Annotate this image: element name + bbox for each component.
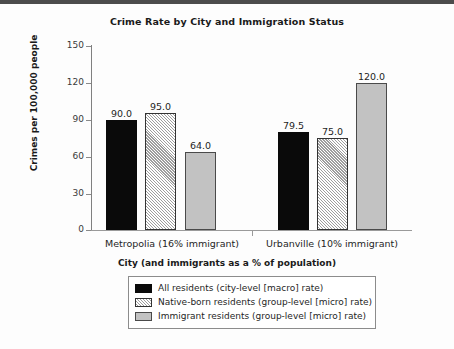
bar-value-label: 79.5 xyxy=(283,120,304,131)
legend-item-native-born[interactable]: Native-born residents (group-level [micr… xyxy=(135,295,369,309)
y-tick-30: 30 xyxy=(54,188,84,200)
bar-urbanville-immigrant[interactable]: 120.0 xyxy=(356,83,387,230)
bar-value-label: 64.0 xyxy=(190,140,211,151)
bar-column: 90.0 xyxy=(106,46,137,230)
legend-label: Native-born residents (group-level [micr… xyxy=(158,297,372,307)
y-tick-120: 120 xyxy=(54,77,84,89)
bar-column: 64.0 xyxy=(185,46,216,230)
chart-legend: All residents (city-level [macro] rate) … xyxy=(128,276,376,329)
y-tick-label: 60 xyxy=(58,151,84,161)
bar-column: 75.0 xyxy=(317,46,348,230)
x-axis-label: City (and immigrants as a % of populatio… xyxy=(0,258,454,268)
legend-swatch-hatch-icon xyxy=(135,298,152,307)
y-axis-label: Crimes per 100,000 people xyxy=(29,33,39,173)
bar-column: 95.0 xyxy=(145,46,176,230)
y-tick-label: 30 xyxy=(58,188,84,198)
y-tick-label: 150 xyxy=(58,40,84,50)
top-band xyxy=(0,0,454,4)
chart-figure: Crime Rate by City and Immigration Statu… xyxy=(0,0,454,349)
y-tick-label: 90 xyxy=(58,114,84,124)
legend-item-all-residents[interactable]: All residents (city-level [macro] rate) xyxy=(135,281,369,295)
y-tick-60: 60 xyxy=(54,151,84,163)
y-tick-label: 120 xyxy=(58,77,84,87)
bar-value-label: 75.0 xyxy=(322,126,343,137)
y-tick-90: 90 xyxy=(54,114,84,126)
x-category-label-metropolia: Metropolia (16% immigrant) xyxy=(92,238,252,249)
legend-swatch-gray-icon xyxy=(135,312,152,321)
bar-value-label: 90.0 xyxy=(111,108,132,119)
plot-area: 90.0 95.0 64.0 79.5 75.0 120.0 xyxy=(92,46,412,230)
bar-urbanville-all-residents[interactable]: 79.5 xyxy=(278,132,309,230)
x-tick-mark xyxy=(252,231,253,236)
legend-label: All residents (city-level [macro] rate) xyxy=(158,283,323,293)
bar-value-label: 120.0 xyxy=(358,71,385,82)
bar-value-label: 95.0 xyxy=(150,101,171,112)
bar-urbanville-native-born[interactable]: 75.0 xyxy=(317,138,348,230)
y-tick-0: 0 xyxy=(54,224,84,236)
bar-metropolia-all-residents[interactable]: 90.0 xyxy=(106,120,137,230)
legend-swatch-solid-icon xyxy=(135,284,152,293)
legend-label: Immigrant residents (group-level [micro]… xyxy=(158,311,366,321)
x-category-label-urbanville: Urbanville (10% immigrant) xyxy=(252,238,412,249)
bar-metropolia-native-born[interactable]: 95.0 xyxy=(145,113,176,230)
chart-title: Crime Rate by City and Immigration Statu… xyxy=(0,16,454,27)
y-tick-150: 150 xyxy=(54,40,84,52)
legend-item-immigrant[interactable]: Immigrant residents (group-level [micro]… xyxy=(135,309,369,323)
y-tick-label: 0 xyxy=(58,224,84,234)
bar-column: 79.5 xyxy=(278,46,309,230)
bar-metropolia-immigrant[interactable]: 64.0 xyxy=(185,152,216,231)
bar-column: 120.0 xyxy=(356,46,387,230)
